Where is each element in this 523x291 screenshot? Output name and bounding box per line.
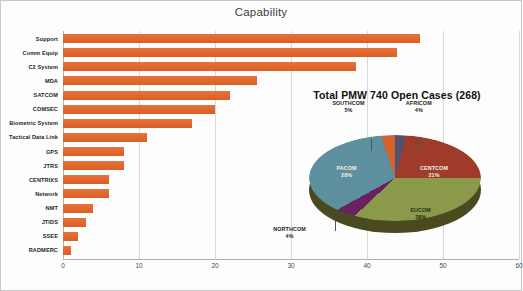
pie-slice-value: 4% bbox=[406, 107, 432, 114]
bar-segment[interactable] bbox=[63, 34, 420, 43]
pie-slice-value: 21% bbox=[420, 172, 448, 179]
bar-segment[interactable] bbox=[63, 119, 192, 128]
bar-category-label: MDA bbox=[45, 78, 58, 84]
bar-category-label: Support bbox=[36, 36, 58, 42]
pie-slice-name: NORTHCOM bbox=[273, 227, 306, 234]
bar-row[interactable]: C2 System bbox=[63, 62, 519, 71]
pie-slice-label-africom: AFRICOM4% bbox=[406, 101, 432, 115]
pie-chart-slices bbox=[309, 135, 481, 221]
x-tick-label: 20 bbox=[211, 262, 218, 269]
bar-segment[interactable] bbox=[63, 161, 124, 170]
bar-segment[interactable] bbox=[63, 62, 356, 71]
bar-segment[interactable] bbox=[63, 91, 230, 100]
pie-leader-line-northcom bbox=[335, 221, 336, 231]
bar-category-label: SSEE bbox=[43, 233, 58, 239]
bar-segment[interactable] bbox=[63, 218, 86, 227]
pie-slice-name: AFRICOM bbox=[406, 101, 432, 108]
bar-category-label: COMSEC bbox=[33, 106, 58, 112]
bar-category-label: Network bbox=[35, 191, 58, 197]
pie-chart-panel: Total PMW 740 Open Cases (268) AFRICOM4%… bbox=[273, 87, 521, 265]
pie-chart-face bbox=[309, 135, 481, 221]
bar-category-label: RADMERC bbox=[29, 247, 58, 253]
bar-category-label: Comm Equip bbox=[23, 50, 59, 56]
bar-row[interactable]: Support bbox=[63, 34, 519, 43]
pie-slice-name: SOUTHCOM bbox=[332, 101, 364, 108]
x-tick-label: 10 bbox=[135, 262, 142, 269]
pie-slice-label-centcom: CENTCOM21% bbox=[420, 165, 448, 179]
bar-category-label: JTIDS bbox=[42, 219, 58, 225]
pie-slice-label-pacom: PACOM28% bbox=[337, 165, 357, 179]
pie-slice-value: 5% bbox=[332, 107, 364, 114]
bar-category-label: JTRS bbox=[43, 163, 58, 169]
bar-segment[interactable] bbox=[63, 76, 257, 85]
pie-slice-label-southcom: SOUTHCOM5% bbox=[332, 101, 364, 115]
bar-segment[interactable] bbox=[63, 147, 124, 156]
bar-category-label: CENTRIXS bbox=[29, 177, 58, 183]
bar-segment[interactable] bbox=[63, 232, 78, 241]
pie-chart-stage: AFRICOM4%CENTCOM21%EUCOM38%NORTHCOM4%PAC… bbox=[301, 113, 491, 253]
pie-chart-title: Total PMW 740 Open Cases (268) bbox=[273, 89, 521, 101]
pie-leader-line-africom bbox=[419, 137, 420, 151]
bar-row[interactable]: Comm Equip bbox=[63, 48, 519, 57]
bar-category-label: C2 System bbox=[28, 64, 58, 70]
pie-slice-label-eucom: EUCOM38% bbox=[410, 207, 431, 221]
bar-category-label: NMT bbox=[46, 205, 58, 211]
pie-slice-value: 4% bbox=[273, 233, 306, 240]
pie-slice-name: CENTCOM bbox=[420, 165, 448, 172]
bar-category-label: SATCOM bbox=[34, 92, 58, 98]
bar-segment[interactable] bbox=[63, 246, 71, 255]
pie-slice-value: 38% bbox=[410, 214, 431, 221]
pie-slice-value: 28% bbox=[337, 172, 357, 179]
x-tick-label: 0 bbox=[61, 262, 65, 269]
bar-row[interactable]: MDA bbox=[63, 76, 519, 85]
pie-slice-name: EUCOM bbox=[410, 207, 431, 214]
bar-category-label: GPS bbox=[46, 149, 58, 155]
bar-chart-title: Capability bbox=[1, 6, 521, 18]
bar-category-label: Biometric System bbox=[9, 120, 58, 126]
pie-slice-label-northcom: NORTHCOM4% bbox=[273, 227, 306, 241]
bar-segment[interactable] bbox=[63, 48, 397, 57]
bar-category-label: Tactical Data Link bbox=[9, 134, 58, 140]
bar-segment[interactable] bbox=[63, 189, 109, 198]
bar-segment[interactable] bbox=[63, 105, 215, 114]
pie-leader-line-southcom bbox=[371, 139, 372, 151]
bar-segment[interactable] bbox=[63, 204, 93, 213]
bar-segment[interactable] bbox=[63, 175, 109, 184]
bar-segment[interactable] bbox=[63, 133, 147, 142]
pie-slice-name: PACOM bbox=[337, 165, 357, 172]
